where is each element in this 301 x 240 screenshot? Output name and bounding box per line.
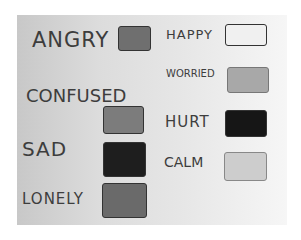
swatch-angry — [118, 26, 151, 51]
swatch-worried — [227, 67, 269, 93]
label-calm: CALM — [164, 154, 203, 170]
swatch-lonely — [102, 183, 147, 218]
swatch-hurt — [225, 110, 267, 137]
swatch-happy — [225, 24, 267, 46]
swatch-confused — [103, 106, 144, 134]
label-confused: CONFUSED — [26, 85, 126, 106]
label-happy: HAPPY — [166, 27, 213, 42]
label-angry: ANGRY — [32, 28, 109, 52]
swatch-sad — [103, 142, 146, 177]
label-hurt: HURT — [165, 113, 210, 131]
label-sad: SAD — [22, 137, 67, 161]
label-worried: WORRIED — [166, 68, 215, 79]
swatch-calm — [224, 152, 267, 181]
label-lonely: LONELY — [22, 190, 84, 208]
